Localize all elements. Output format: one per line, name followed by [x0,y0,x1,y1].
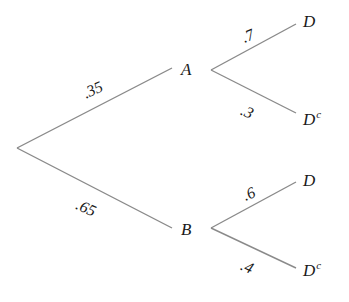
edge-root-B [17,148,172,228]
node-label: D [303,110,315,129]
node-B-D: D [303,172,315,189]
node-label: D [303,261,315,280]
edge-A-D [211,24,296,70]
node-label: D [303,12,315,31]
node-B: B [181,221,191,238]
probability-tree-diagram: A B D Dc D Dc .35 .65 .7 .3 .6 .4 [0,0,349,302]
complement-superscript: c [316,259,321,271]
node-B-Dc: Dc [303,260,321,279]
complement-superscript: c [316,108,321,120]
node-A: A [181,61,191,78]
tree-edges [0,0,349,302]
node-label: D [303,171,315,190]
node-A-D: D [303,13,315,30]
node-A-Dc: Dc [303,109,321,128]
